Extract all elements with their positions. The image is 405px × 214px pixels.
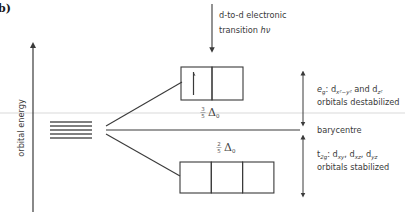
eg-label-line2: orbitals destabilized bbox=[317, 97, 400, 107]
degenerate-d-levels bbox=[50, 122, 92, 138]
lower-split-denominator: 5 bbox=[217, 148, 221, 154]
eg-label-line1: eg: dx²−y² and dz² bbox=[317, 84, 383, 96]
t2g-orbital-boxes bbox=[180, 162, 274, 193]
upper-split-numerator: 3 bbox=[201, 106, 205, 112]
eg-orbital-boxes bbox=[181, 67, 243, 100]
orbital-box bbox=[180, 162, 211, 193]
lower-split-label: 2 5 Δ0 bbox=[217, 141, 236, 154]
upper-split-delta: Δ0 bbox=[208, 106, 220, 119]
lower-split-delta: Δ0 bbox=[224, 141, 236, 154]
orbital-box bbox=[243, 162, 274, 193]
orbital-box bbox=[181, 67, 212, 100]
t2g-label-line2: orbitals stabilized bbox=[317, 162, 389, 172]
transition-line1: d-to-d electronic bbox=[219, 10, 287, 20]
t2g-connector-line bbox=[106, 134, 180, 176]
lower-split-numerator: 2 bbox=[217, 141, 221, 147]
panel-label: b) bbox=[0, 2, 11, 15]
crystal-field-diagram: b) orbital energy d-to-d electronic tran… bbox=[0, 0, 405, 214]
orbital-box bbox=[211, 162, 242, 193]
transition-line2: transition hν bbox=[219, 25, 271, 35]
upper-split-label: 3 5 Δ0 bbox=[201, 106, 220, 119]
barycentre-label: barycentre bbox=[317, 125, 362, 135]
upper-split-denominator: 5 bbox=[201, 113, 205, 119]
t2g-label-line1: t2g: dxy, dxz, dyz bbox=[317, 149, 378, 161]
orbital-box bbox=[212, 67, 243, 100]
axis-label: orbital energy bbox=[16, 99, 26, 157]
eg-connector-line bbox=[106, 82, 182, 126]
